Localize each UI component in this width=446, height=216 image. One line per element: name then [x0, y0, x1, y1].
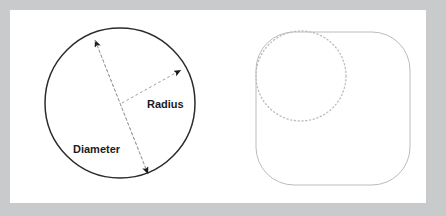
geometry-figure: Radius Diameter	[0, 0, 446, 216]
radius-label: Radius	[147, 98, 184, 110]
diameter-label: Diameter	[73, 143, 121, 155]
rounded-square	[256, 32, 410, 185]
screenshot-root: Radius Diameter	[0, 0, 446, 216]
inscribed-dotted-circle	[256, 31, 346, 121]
